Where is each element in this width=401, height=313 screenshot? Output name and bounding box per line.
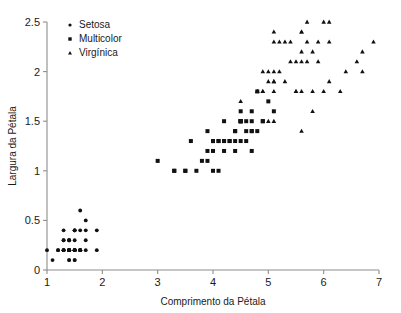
data-point-square	[255, 129, 259, 133]
data-point-square	[217, 139, 221, 143]
data-point-square	[211, 139, 215, 143]
data-point-square	[244, 129, 248, 133]
data-point-circle	[78, 248, 82, 252]
data-point-triangle	[277, 69, 282, 73]
data-point-triangle	[305, 59, 310, 63]
data-point-circle	[67, 258, 71, 262]
data-point-triangle	[272, 69, 277, 73]
data-point-circle	[67, 238, 71, 242]
data-point-triangle	[283, 79, 288, 83]
plot-canvas: 123456700.511.522.5Comprimento da Pétala…	[0, 0, 401, 313]
data-point-square	[200, 159, 204, 163]
data-point-triangle	[371, 39, 376, 43]
legend-marker-circle	[68, 23, 71, 26]
data-point-square	[233, 129, 237, 133]
data-point-square	[239, 119, 243, 123]
data-point-square	[266, 99, 270, 103]
data-point-square	[250, 109, 254, 113]
x-tick-label: 1	[44, 276, 50, 288]
data-point-triangle	[305, 39, 310, 43]
data-point-circle	[73, 238, 77, 242]
data-point-square	[205, 149, 209, 153]
data-point-circle	[84, 238, 88, 242]
data-point-triangle	[305, 20, 310, 24]
data-point-circle	[84, 228, 88, 232]
x-axis-title: Comprimento da Pétala	[160, 296, 265, 307]
data-point-triangle	[327, 20, 332, 24]
data-point-circle	[95, 248, 99, 252]
data-point-triangle	[299, 89, 304, 93]
data-point-circle	[84, 219, 88, 223]
data-point-circle	[73, 248, 77, 252]
data-point-circle	[62, 238, 66, 242]
data-point-triangle	[283, 39, 288, 43]
x-tick-label: 3	[155, 276, 161, 288]
data-point-triangle	[266, 79, 271, 83]
legend-label: Setosa	[79, 19, 111, 30]
data-point-triangle	[261, 69, 266, 73]
data-point-circle	[62, 228, 66, 232]
axis-lines	[47, 22, 379, 270]
legend-label: Virgínica	[79, 47, 118, 58]
legend-marker-triangle	[68, 51, 72, 54]
x-tick-label: 7	[376, 276, 382, 288]
data-point-triangle	[299, 129, 304, 133]
data-point-triangle	[299, 59, 304, 63]
data-point-circle	[51, 258, 55, 262]
data-point-triangle	[288, 59, 293, 63]
data-point-triangle	[310, 109, 315, 113]
data-point-circle	[78, 228, 82, 232]
data-point-triangle	[310, 89, 315, 93]
data-point-circle	[73, 258, 77, 262]
data-point-triangle	[272, 79, 277, 83]
data-point-triangle	[277, 39, 282, 43]
data-point-square	[233, 139, 237, 143]
data-point-square	[183, 169, 187, 173]
data-point-circle	[73, 228, 77, 232]
data-point-square	[189, 139, 193, 143]
data-point-triangle	[321, 89, 326, 93]
data-point-triangle	[266, 119, 271, 123]
data-point-triangle	[338, 89, 343, 93]
data-point-triangle	[299, 49, 304, 53]
data-point-triangle	[299, 30, 304, 34]
data-point-square	[250, 149, 254, 153]
data-point-square	[217, 169, 221, 173]
data-point-square	[211, 169, 215, 173]
data-point-triangle	[266, 69, 271, 73]
data-point-triangle	[272, 39, 277, 43]
data-point-square	[250, 119, 254, 123]
data-point-circle	[67, 248, 71, 252]
data-point-square	[211, 149, 215, 153]
data-point-square	[233, 149, 237, 153]
scatter-plot-figure: 123456700.511.522.5Comprimento da Pétala…	[0, 0, 401, 313]
data-point-circle	[62, 248, 66, 252]
data-point-triangle	[288, 39, 293, 43]
x-tick-label: 4	[210, 276, 216, 288]
y-tick-label: 0	[34, 264, 40, 276]
data-point-square	[205, 159, 209, 163]
legend-marker-square	[68, 37, 71, 40]
y-tick-label: 1.5	[25, 115, 40, 127]
data-point-triangle	[360, 49, 365, 53]
data-point-triangle	[272, 30, 277, 34]
data-point-triangle	[344, 69, 349, 73]
data-point-square	[244, 139, 248, 143]
data-point-triangle	[316, 59, 321, 63]
data-point-square	[261, 119, 265, 123]
data-point-triangle	[310, 49, 315, 53]
data-point-triangle	[272, 119, 277, 123]
data-point-circle	[78, 209, 82, 213]
x-tick-label: 2	[99, 276, 105, 288]
data-point-triangle	[360, 69, 365, 73]
data-point-square	[222, 149, 226, 153]
data-point-square	[222, 119, 226, 123]
data-point-triangle	[238, 99, 243, 103]
data-point-triangle	[355, 59, 360, 63]
data-point-circle	[56, 248, 60, 252]
y-tick-label: 0.5	[25, 214, 40, 226]
data-point-square	[156, 159, 160, 163]
data-point-triangle	[327, 39, 332, 43]
data-point-square	[272, 109, 276, 113]
y-axis-title: Largura da Pétala	[7, 106, 18, 186]
